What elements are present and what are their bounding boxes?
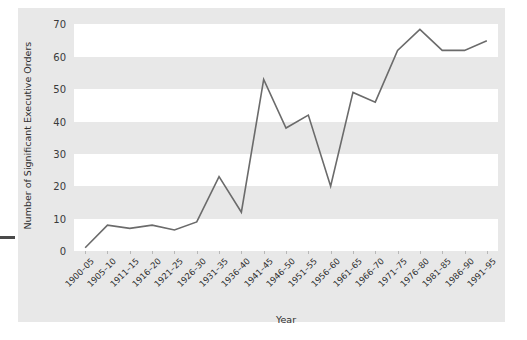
x-axis-tick-mark xyxy=(197,251,198,254)
plot-area xyxy=(74,18,498,251)
x-axis-tick-mark xyxy=(420,251,421,254)
x-axis-tick-mark xyxy=(375,251,376,254)
y-axis-tick-label: 0 xyxy=(60,246,66,257)
data-series-line xyxy=(85,29,487,247)
x-axis-tick-mark xyxy=(130,251,131,254)
y-axis-title: Number of Significant Executive Orders xyxy=(22,50,33,230)
y-axis-tick-label: 60 xyxy=(53,51,66,62)
x-axis-tick-mark xyxy=(107,251,108,254)
x-axis-tick-mark xyxy=(487,251,488,254)
x-axis-tick-mark xyxy=(174,251,175,254)
x-axis-tick-mark xyxy=(152,251,153,254)
y-axis-tick-label: 10 xyxy=(53,213,66,224)
y-axis: 010203040506070 xyxy=(0,18,72,251)
y-axis-tick-label: 30 xyxy=(53,148,66,159)
x-axis-tick-mark xyxy=(353,251,354,254)
y-axis-tick-label: 50 xyxy=(53,84,66,95)
data-line-svg xyxy=(74,18,498,251)
x-axis-tick-mark xyxy=(264,251,265,254)
x-axis-tick-mark xyxy=(331,251,332,254)
x-axis-tick-mark xyxy=(85,251,86,254)
x-axis-tick-mark xyxy=(219,251,220,254)
x-axis-tick-mark xyxy=(286,251,287,254)
x-axis-tick-mark xyxy=(465,251,466,254)
x-axis-tick-mark xyxy=(241,251,242,254)
x-axis-tick-mark xyxy=(308,251,309,254)
y-axis-tick-label: 20 xyxy=(53,181,66,192)
x-axis-tick-mark xyxy=(398,251,399,254)
plot-wrapper xyxy=(74,18,498,251)
x-axis: 1900–051905–101911–151916–201921–251926–… xyxy=(74,251,498,311)
x-axis-title: Year xyxy=(74,314,498,325)
y-axis-tick-label: 70 xyxy=(53,19,66,30)
x-axis-tick-mark xyxy=(442,251,443,254)
y-axis-tick-label: 40 xyxy=(53,116,66,127)
